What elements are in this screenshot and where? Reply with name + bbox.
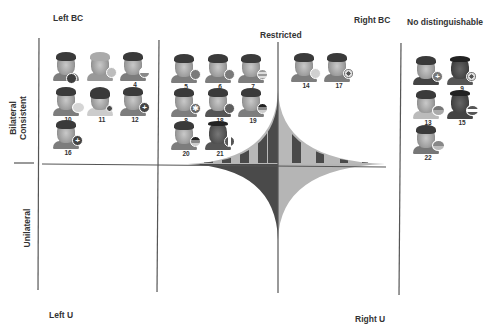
- flag-icon: [310, 68, 321, 79]
- label-unilateral: Unilateral: [22, 198, 32, 258]
- nordic-cross-flag-icon: +: [432, 71, 443, 82]
- flag-icon: [106, 105, 113, 112]
- flag-icon: [432, 140, 445, 151]
- label-right-u: Right U: [355, 314, 385, 324]
- flag-icon: [139, 67, 150, 78]
- label-bilateral: Bilateral: [8, 88, 18, 148]
- player-card: 11: [87, 88, 117, 128]
- star-lower-right: [278, 164, 385, 240]
- player-number: 14: [291, 82, 321, 89]
- player-card: 20: [171, 122, 201, 162]
- player-number: 17: [324, 82, 354, 89]
- player-number: 21: [205, 150, 235, 157]
- flag-icon: [72, 102, 85, 113]
- player-number: 16: [53, 149, 83, 156]
- flag-icon: [224, 103, 235, 114]
- emblem-flag-icon: [343, 68, 354, 79]
- label-bilateral-consistent: Bilateral Consistent: [8, 88, 28, 148]
- star-lower-left: [188, 164, 278, 240]
- player-number: 11: [87, 116, 117, 123]
- label-restricted: Restricted: [260, 30, 302, 40]
- player-card: 19: [238, 89, 268, 129]
- diagram-canvas: [0, 0, 488, 334]
- player-number: 19: [238, 117, 268, 124]
- label-left-bc: Left BC: [53, 13, 83, 23]
- player-card: 14: [291, 54, 321, 94]
- flag-icon: [224, 136, 235, 147]
- player-card: + 12: [120, 88, 150, 128]
- flag-icon: [432, 105, 445, 116]
- player-number: 22: [413, 154, 443, 161]
- label-consistent: Consistent: [18, 88, 28, 148]
- emblem-flag-icon: [466, 71, 477, 82]
- player-card: 17: [324, 54, 354, 94]
- player-card: 22: [413, 126, 443, 166]
- flag-icon: [106, 67, 117, 78]
- player-number: 15: [447, 119, 477, 126]
- player-number: 20: [171, 150, 201, 157]
- player-number: 12: [120, 116, 150, 123]
- label-no-distinguishable: No distinguishable: [407, 17, 483, 27]
- flag-icon: [66, 73, 77, 84]
- cross-flag-icon: +: [139, 102, 150, 113]
- label-right-bc: Right BC: [354, 15, 390, 25]
- union-jack-flag-icon: ✱: [190, 103, 201, 114]
- flag-icon: [257, 69, 268, 80]
- divider-right: [399, 43, 401, 295]
- divider-left: [38, 38, 39, 290]
- flag-icon: [257, 103, 268, 114]
- player-card: 15: [447, 91, 477, 131]
- player-card: 21: [205, 122, 235, 162]
- flag-icon: [190, 136, 201, 147]
- label-left-u: Left U: [49, 310, 73, 320]
- divider-left-center: [157, 40, 159, 292]
- player-card: + 16: [53, 121, 83, 161]
- flag-icon: [224, 69, 235, 80]
- cross-flag-icon: +: [72, 135, 83, 146]
- flag-icon: [190, 69, 201, 80]
- flag-icon: [466, 105, 479, 116]
